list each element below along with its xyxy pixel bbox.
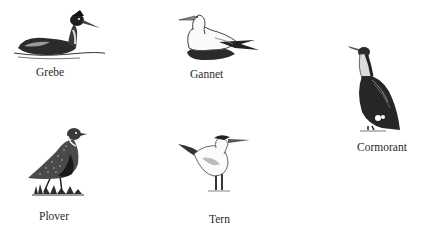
- plover-label: Plover: [39, 210, 69, 222]
- gannet-label: Gannet: [190, 68, 223, 80]
- tern-illustration: [178, 134, 252, 196]
- cormorant-illustration: [346, 42, 406, 134]
- cormorant-label: Cormorant: [357, 141, 407, 153]
- gannet-illustration: [175, 10, 260, 62]
- plover-illustration: [26, 124, 90, 198]
- grebe-label: Grebe: [36, 66, 64, 78]
- tern-label: Tern: [209, 213, 230, 225]
- grebe-illustration: [10, 8, 105, 64]
